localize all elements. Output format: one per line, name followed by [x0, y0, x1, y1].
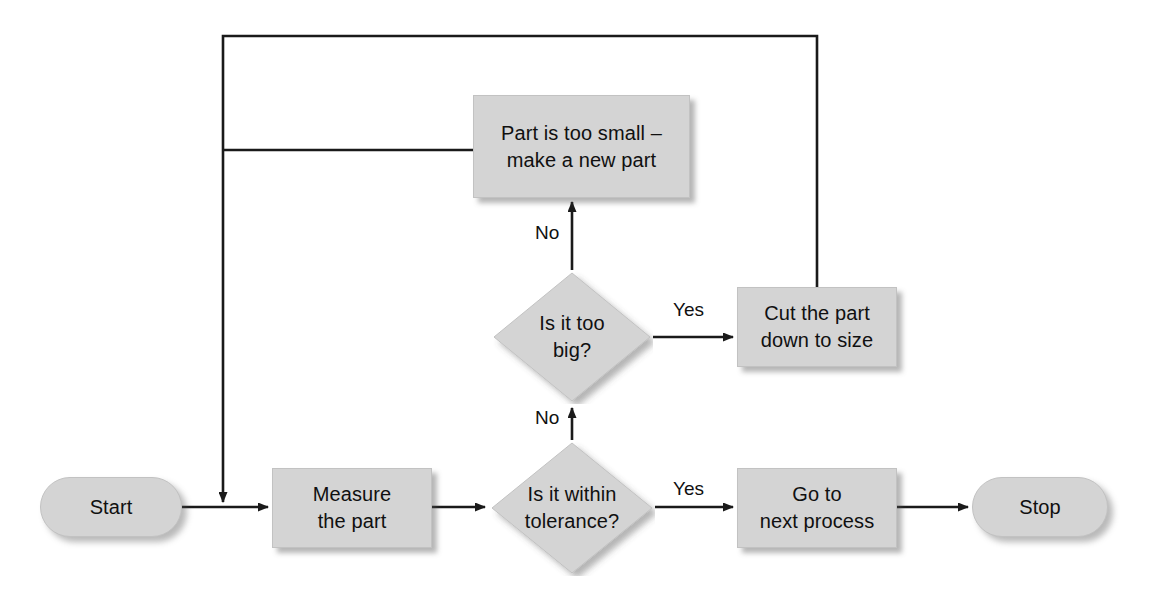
edge-label-within-yes: Yes: [673, 478, 704, 500]
node-stop-label: Stop: [1019, 494, 1061, 521]
node-go-to-next-process[interactable]: Go tonext process: [737, 468, 897, 548]
node-part-is-too-small-label: Part is too small –make a new part: [501, 120, 662, 174]
node-is-it-too-big[interactable]: Is it toobig?: [491, 270, 653, 404]
edge-label-toobig-yes: Yes: [673, 299, 704, 321]
node-is-it-too-big-label: Is it toobig?: [539, 310, 604, 364]
node-measure-the-part[interactable]: Measurethe part: [272, 468, 432, 548]
node-start[interactable]: Start: [40, 477, 182, 537]
node-part-is-too-small[interactable]: Part is too small –make a new part: [473, 95, 690, 198]
edge-label-within-no: No: [535, 407, 559, 429]
node-cut-the-part-down-to-size[interactable]: Cut the partdown to size: [737, 287, 897, 367]
node-is-it-within-tolerance[interactable]: Is it withintolerance?: [489, 440, 655, 576]
node-is-it-within-tolerance-label: Is it withintolerance?: [525, 481, 619, 535]
flowchart-canvas: Start Measurethe part Is it withintolera…: [0, 0, 1162, 610]
node-stop[interactable]: Stop: [972, 477, 1108, 537]
node-measure-the-part-label: Measurethe part: [313, 481, 392, 535]
edge-label-toobig-no: No: [535, 222, 559, 244]
node-cut-the-part-down-to-size-label: Cut the partdown to size: [761, 300, 873, 354]
node-go-to-next-process-label: Go tonext process: [760, 481, 875, 535]
node-start-label: Start: [90, 494, 133, 521]
